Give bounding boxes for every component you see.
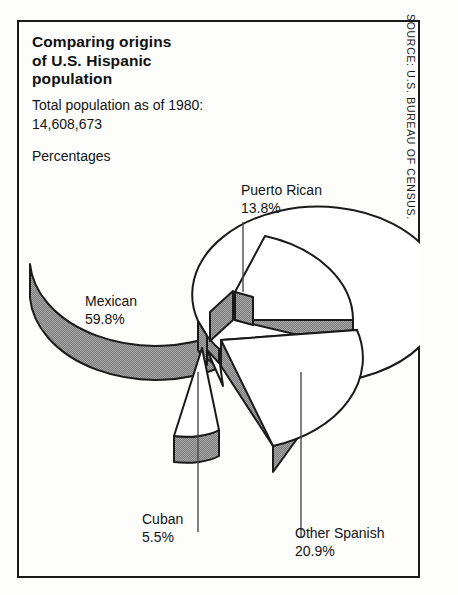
pie-chart-svg [17,160,420,578]
slice-label-cuban-pct: 5.5% [142,529,183,547]
slice-label-puerto-rican-pct: 13.8% [241,200,322,218]
slice-label-other-spanish: Other Spanish 20.9% [295,525,385,560]
slice-label-mexican: Mexican 59.8% [85,293,137,328]
page-title: Comparing origins of U.S. Hispanic popul… [32,33,282,89]
subtitle-line-2: 14,608,673 [32,115,312,134]
slice-label-other-spanish-name: Other Spanish [295,525,385,541]
slice-label-other-spanish-pct: 20.9% [295,543,385,561]
slice-label-mexican-pct: 59.8% [85,311,137,329]
slice-label-puerto-rican-name: Puerto Rican [241,182,322,198]
chart-card-root: Comparing origins of U.S. Hispanic popul… [0,0,458,595]
slice-label-puerto-rican: Puerto Rican 13.8% [241,182,322,217]
title-line-2: of U.S. Hispanic [32,52,282,71]
subtitle-line-1: Total population as of 1980: [32,96,312,115]
subtitle: Total population as of 1980: 14,608,673 [32,96,312,134]
slice-label-cuban: Cuban 5.5% [142,511,183,546]
slice-puerto-rican-left-wall [235,292,253,325]
slice-label-mexican-name: Mexican [85,293,137,309]
title-line-3: population [32,70,282,89]
pie-chart [17,160,420,578]
slice-label-cuban-name: Cuban [142,511,183,527]
title-line-1: Comparing origins [32,33,282,52]
